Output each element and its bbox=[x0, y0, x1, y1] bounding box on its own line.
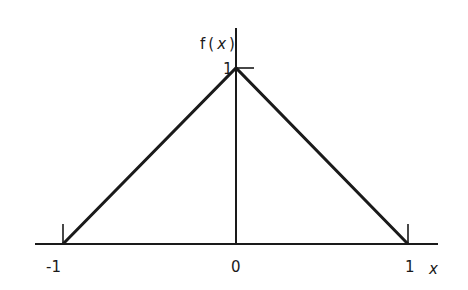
x-axis-label: x bbox=[428, 260, 438, 278]
function-label: f(x) bbox=[200, 35, 235, 53]
x-tick-label-0: 0 bbox=[231, 258, 241, 276]
triangle-function-diagram: f(x) 1 -1 0 1 x bbox=[0, 0, 468, 290]
peak-value-label: 1 bbox=[223, 60, 233, 78]
x-tick-label-1: 1 bbox=[405, 258, 415, 276]
x-tick-label-neg1: -1 bbox=[46, 258, 61, 276]
